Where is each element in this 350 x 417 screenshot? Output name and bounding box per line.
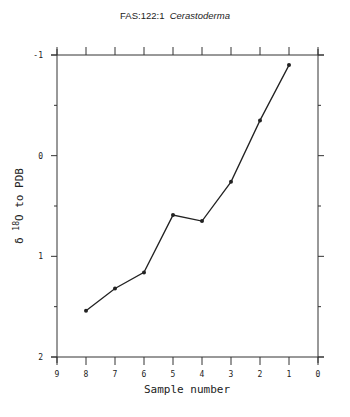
x-tick-label: 0 (316, 370, 321, 379)
x-tick-label: 5 (171, 370, 176, 379)
data-point-marker (84, 309, 88, 313)
x-tick-label: 1 (287, 370, 292, 379)
data-point-marker (142, 270, 146, 274)
data-point-marker (113, 287, 117, 291)
line-chart: 9876543210-1012 Sample number δ 18O to P… (0, 0, 350, 417)
data-series (84, 63, 291, 313)
x-tick-label: 2 (258, 370, 263, 379)
x-tick-label: 4 (200, 370, 205, 379)
x-tick-label: 6 (142, 370, 147, 379)
data-point-marker (171, 213, 175, 217)
series-line (86, 65, 289, 311)
plot-frame (51, 49, 324, 363)
data-point-marker (258, 118, 262, 122)
axis-tick-labels: 9876543210-1012 (33, 51, 320, 379)
y-tick-label: 1 (38, 252, 43, 261)
x-tick-label: 9 (55, 370, 60, 379)
data-point-marker (287, 63, 291, 67)
data-point-marker (229, 180, 233, 184)
y-axis-label: δ 18O to PDB (12, 168, 26, 244)
x-tick-label: 8 (84, 370, 89, 379)
y-tick-label: 0 (38, 152, 43, 161)
data-point-marker (200, 219, 204, 223)
x-tick-label: 7 (113, 370, 118, 379)
y-tick-label: -1 (33, 51, 43, 60)
x-tick-label: 3 (229, 370, 234, 379)
x-axis-label: Sample number (144, 383, 230, 396)
axis-ticks (51, 47, 324, 365)
y-tick-label: 2 (38, 353, 43, 362)
